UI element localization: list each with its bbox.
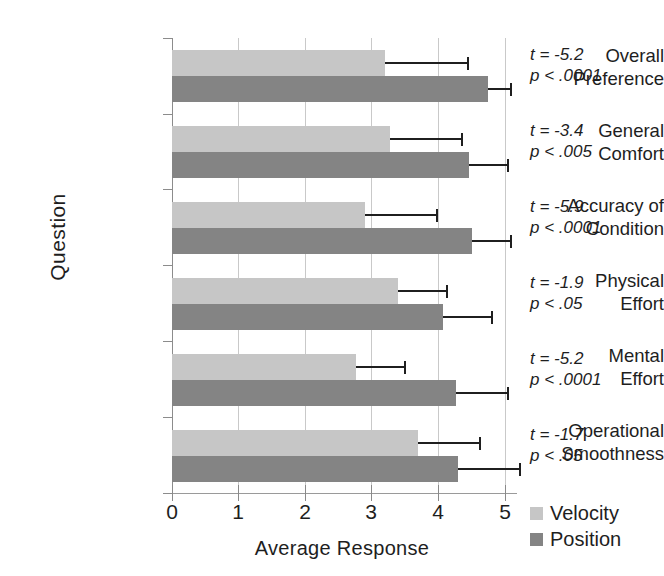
stat-annotation-physical-effort: t = -1.9 p < .05 — [530, 272, 583, 314]
bar-velocity-general-comfort — [172, 126, 390, 152]
y-tick-6 — [163, 493, 172, 494]
legend: Velocity Position — [530, 500, 621, 552]
errorbar-cap-position-overall-preference — [510, 83, 512, 96]
bar-position-overall-preference — [172, 76, 488, 102]
x-tick-label-3: 3 — [351, 500, 391, 524]
y-tick-3 — [163, 265, 172, 266]
stat-p-value: p < .05 — [530, 293, 583, 314]
x-tick-label-2: 2 — [285, 500, 325, 524]
x-tick-label-4: 4 — [418, 500, 458, 524]
gridline-1 — [238, 38, 239, 493]
legend-label-velocity: Velocity — [550, 502, 619, 525]
x-tick-0 — [172, 485, 173, 501]
x-axis-spine — [172, 493, 517, 494]
x-tick-label-1: 1 — [218, 500, 258, 524]
stat-annotation-operational-smoothness: t = -1.7 p < .05 — [530, 424, 583, 466]
stat-p-value: p < .0001 — [530, 65, 601, 86]
stat-t-value: t = -5.9 — [530, 196, 601, 217]
errorbar-position-operational-smoothness — [458, 468, 521, 470]
errorbar-cap-velocity-accuracy-of-condition — [436, 209, 438, 222]
y-tick-4 — [163, 341, 172, 342]
errorbar-velocity-overall-preference — [385, 62, 469, 64]
errorbar-cap-position-operational-smoothness — [519, 463, 521, 476]
x-tick-label-5: 5 — [485, 500, 525, 524]
errorbar-velocity-general-comfort — [390, 138, 463, 140]
y-axis-title: Question — [46, 137, 70, 337]
stat-p-value: p < .0001 — [530, 217, 601, 238]
errorbar-cap-position-accuracy-of-condition — [510, 235, 512, 248]
stat-t-value: t = -5.2 — [530, 44, 601, 65]
errorbar-cap-position-physical-effort — [491, 311, 493, 324]
y-tick-1 — [163, 114, 172, 115]
y-axis-spine — [172, 38, 173, 493]
x-tick-5 — [505, 485, 506, 501]
bar-velocity-operational-smoothness — [172, 430, 418, 456]
bar-velocity-physical-effort — [172, 278, 398, 304]
legend-label-position: Position — [550, 528, 621, 551]
stat-p-value: p < .0001 — [530, 369, 601, 390]
gridline-2 — [305, 38, 306, 493]
stat-p-value: p < .05 — [530, 445, 583, 466]
y-tick-5 — [163, 417, 172, 418]
errorbar-cap-velocity-general-comfort — [461, 133, 463, 146]
stat-t-value: t = -3.4 — [530, 120, 592, 141]
legend-item-velocity: Velocity — [530, 500, 621, 526]
bar-position-mental-effort — [172, 380, 456, 406]
stat-t-value: t = -1.7 — [530, 424, 583, 445]
bar-position-accuracy-of-condition — [172, 228, 472, 254]
stat-annotation-mental-effort: t = -5.2 p < .0001 — [530, 348, 601, 390]
errorbar-position-physical-effort — [443, 316, 493, 318]
bar-position-general-comfort — [172, 152, 469, 178]
errorbar-velocity-accuracy-of-condition — [365, 214, 438, 216]
x-tick-4 — [438, 485, 439, 501]
stat-t-value: t = -5.2 — [530, 348, 601, 369]
bar-velocity-mental-effort — [172, 354, 356, 380]
errorbar-cap-velocity-physical-effort — [446, 285, 448, 298]
errorbar-velocity-mental-effort — [356, 366, 406, 368]
errorbar-position-overall-preference — [488, 88, 512, 90]
errorbar-cap-velocity-operational-smoothness — [479, 437, 481, 450]
bar-position-physical-effort — [172, 304, 443, 330]
y-tick-0 — [163, 38, 172, 39]
errorbar-position-general-comfort — [469, 164, 509, 166]
plot-area — [172, 38, 505, 493]
errorbar-cap-position-mental-effort — [507, 387, 509, 400]
bar-velocity-accuracy-of-condition — [172, 202, 365, 228]
legend-swatch-icon-position — [530, 533, 543, 546]
x-axis-title: Average Response — [172, 537, 512, 560]
stat-p-value: p < .005 — [530, 141, 592, 162]
errorbar-cap-position-general-comfort — [507, 159, 509, 172]
bar-velocity-overall-preference — [172, 50, 385, 76]
legend-item-position: Position — [530, 526, 621, 552]
x-tick-1 — [238, 485, 239, 501]
x-tick-3 — [371, 485, 372, 501]
errorbar-cap-velocity-mental-effort — [404, 361, 406, 374]
x-tick-label-0: 0 — [152, 500, 192, 524]
x-tick-2 — [305, 485, 306, 501]
errorbar-position-mental-effort — [456, 392, 509, 394]
errorbar-cap-velocity-overall-preference — [467, 57, 469, 70]
stat-annotation-general-comfort: t = -3.4 p < .005 — [530, 120, 592, 162]
legend-swatch-icon-velocity — [530, 507, 543, 520]
errorbar-position-accuracy-of-condition — [472, 240, 512, 242]
gridline-5 — [505, 38, 506, 493]
errorbar-velocity-operational-smoothness — [418, 442, 481, 444]
y-tick-2 — [163, 189, 172, 190]
errorbar-velocity-physical-effort — [398, 290, 448, 292]
bar-position-operational-smoothness — [172, 456, 458, 482]
stat-annotation-overall-preference: t = -5.2 p < .0001 — [530, 44, 601, 86]
bar-chart-figure: Question Overall Preference General Comf… — [0, 0, 664, 576]
gridline-4 — [438, 38, 439, 493]
stat-t-value: t = -1.9 — [530, 272, 583, 293]
gridline-3 — [371, 38, 372, 493]
stat-annotation-accuracy-of-condition: t = -5.9 p < .0001 — [530, 196, 601, 238]
